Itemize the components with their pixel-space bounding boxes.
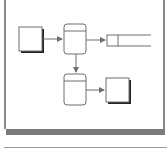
process-2 [64, 74, 86, 105]
data-flow-diagram [0, 0, 167, 150]
entity-sink [106, 78, 131, 104]
data-store [107, 35, 151, 46]
entity-source [19, 27, 44, 53]
process-1 [64, 24, 86, 54]
